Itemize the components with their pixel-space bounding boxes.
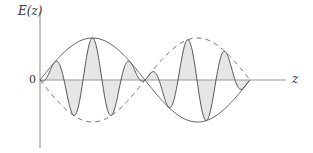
origin-label: 0 — [29, 73, 36, 86]
beat-wave-diagram — [0, 0, 313, 153]
z-axis-label: z — [292, 72, 298, 86]
y-axis-label: E(z) — [18, 4, 42, 18]
